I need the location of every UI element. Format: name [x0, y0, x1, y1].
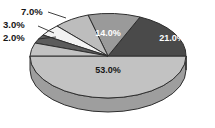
leader-line-7-icon [48, 12, 66, 18]
slice-label-21: 21.0% [159, 33, 185, 43]
slice-label-53: 53.0% [95, 65, 121, 75]
slice-label-2: 2.0% [3, 32, 25, 43]
pie-chart-figure: 21.0% 14.0% 53.0% 7.0% 3.0% 2.0% [0, 0, 215, 128]
pie-top-face [30, 13, 186, 98]
pie-chart-canvas: 21.0% 14.0% 53.0% 7.0% 3.0% 2.0% [0, 0, 215, 128]
slice-label-3: 3.0% [3, 19, 25, 30]
slice-label-14: 14.0% [95, 28, 121, 38]
slice-label-7: 7.0% [21, 6, 43, 17]
